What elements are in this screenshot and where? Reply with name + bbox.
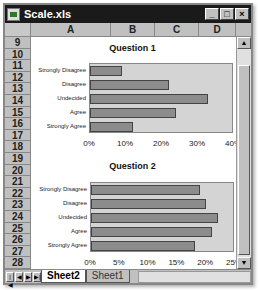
first-sheet-button[interactable]: |◀ <box>6 272 14 282</box>
maximize-button[interactable]: □ <box>220 8 234 20</box>
scroll-up-button[interactable]: ▲ <box>237 37 251 49</box>
row-header-15[interactable]: 15 <box>5 107 31 119</box>
title-bar: Scale.xls _ □ × <box>5 5 251 23</box>
category-label: Strongly Disagree <box>38 67 86 73</box>
row-header-25[interactable]: 25 <box>5 223 31 235</box>
vertical-scroll-thumb[interactable] <box>238 65 250 255</box>
tab-sheet1[interactable]: Sheet1 <box>86 270 130 283</box>
select-all-corner[interactable] <box>5 23 31 36</box>
category-label: Disagree <box>62 81 86 87</box>
plot-area: Strongly DisagreeDisagreeUndecidedAgreeS… <box>90 182 234 252</box>
column-header-d[interactable]: D <box>199 23 236 36</box>
column-header-b[interactable]: B <box>111 23 155 36</box>
bar[interactable] <box>91 227 212 237</box>
row-header-23[interactable]: 23 <box>5 199 31 211</box>
row-header-19[interactable]: 19 <box>5 153 31 165</box>
plot-area: Strongly DisagreeDisagreeUndecidedAgreeS… <box>89 63 233 133</box>
row-headers: 910111213141516171819202122232425262728 <box>5 37 31 269</box>
category-label: Undecided <box>58 214 87 220</box>
bar[interactable] <box>91 199 206 209</box>
tab-sheet2[interactable]: Sheet2 <box>41 270 86 283</box>
tick-label: 20% <box>197 258 213 267</box>
row-header-21[interactable]: 21 <box>5 176 31 188</box>
tick-label: 15% <box>168 258 184 267</box>
category-label: Undecided <box>57 95 86 101</box>
category-label: Agree <box>70 109 86 115</box>
close-button[interactable]: × <box>235 8 249 20</box>
excel-file-icon <box>7 8 20 21</box>
bar[interactable] <box>90 122 133 132</box>
split-box[interactable] <box>236 23 251 36</box>
row-header-27[interactable]: 27 <box>5 246 31 258</box>
column-headers: A B C D <box>5 23 251 37</box>
tick-label: 20% <box>153 139 169 148</box>
excel-window: Scale.xls _ □ × A B C D 9101112131415161… <box>3 3 253 285</box>
chart-question-1[interactable]: Question 1 Strongly DisagreeDisagreeUnde… <box>31 37 234 155</box>
row-header-16[interactable]: 16 <box>5 118 31 130</box>
horizontal-scrollbar[interactable] <box>138 271 252 283</box>
row-header-12[interactable]: 12 <box>5 72 31 84</box>
row-header-28[interactable]: 28 <box>5 257 31 269</box>
tick-label: 30% <box>189 139 205 148</box>
tick-label: 0% <box>84 258 96 267</box>
minimize-button[interactable]: _ <box>205 8 219 20</box>
next-sheet-button[interactable]: ▶ <box>24 272 32 282</box>
prev-sheet-button[interactable]: ◀ <box>15 272 23 282</box>
bar[interactable] <box>90 66 122 76</box>
category-label: Strongly Agree <box>47 123 86 129</box>
column-header-a[interactable]: A <box>31 23 111 36</box>
row-header-17[interactable]: 17 <box>5 130 31 142</box>
tick-label: 5% <box>113 258 125 267</box>
tick-label: 10% <box>117 139 133 148</box>
category-label: Strongly Disagree <box>39 186 87 192</box>
row-header-18[interactable]: 18 <box>5 141 31 153</box>
bar[interactable] <box>91 241 195 251</box>
category-label: Strongly Agree <box>48 242 87 248</box>
last-sheet-button[interactable]: ▶| <box>33 272 41 282</box>
row-header-26[interactable]: 26 <box>5 234 31 246</box>
tick-label: 0% <box>83 139 95 148</box>
chart-title: Question 1 <box>31 43 234 53</box>
row-header-22[interactable]: 22 <box>5 188 31 200</box>
column-header-c[interactable]: C <box>155 23 199 36</box>
row-header-24[interactable]: 24 <box>5 211 31 223</box>
row-header-10[interactable]: 10 <box>5 49 31 61</box>
bar[interactable] <box>91 213 218 223</box>
sheet-tab-bar: |◀ ◀ ▶ ▶| Sheet2 Sheet1 <box>5 269 251 283</box>
category-label: Disagree <box>63 200 87 206</box>
scroll-down-button[interactable]: ▼ <box>237 257 251 269</box>
row-header-13[interactable]: 13 <box>5 83 31 95</box>
tick-label: 10% <box>140 258 156 267</box>
chart-question-2[interactable]: Question 2 Strongly DisagreeDisagreeUnde… <box>31 155 234 269</box>
row-header-14[interactable]: 14 <box>5 95 31 107</box>
row-header-20[interactable]: 20 <box>5 165 31 177</box>
bar[interactable] <box>91 185 200 195</box>
row-header-11[interactable]: 11 <box>5 60 31 72</box>
category-label: Agree <box>71 228 87 234</box>
bar[interactable] <box>90 94 208 104</box>
window-title: Scale.xls <box>24 8 204 20</box>
vertical-scrollbar[interactable]: ▲ ▼ <box>236 37 251 269</box>
bar[interactable] <box>90 80 169 90</box>
chart-title: Question 2 <box>31 161 234 171</box>
bar[interactable] <box>90 108 176 118</box>
worksheet-grid[interactable]: 910111213141516171819202122232425262728 … <box>5 37 251 269</box>
row-header-9[interactable]: 9 <box>5 37 31 49</box>
